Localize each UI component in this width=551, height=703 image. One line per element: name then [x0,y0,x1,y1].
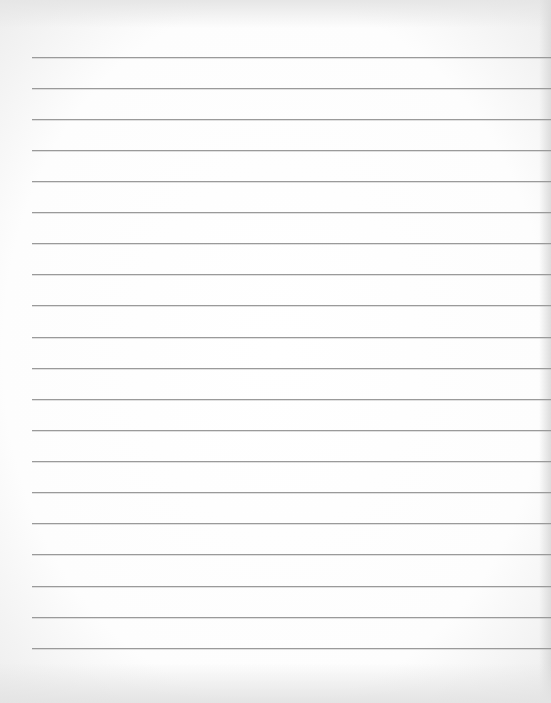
ruled-line [32,274,551,275]
ruled-line [32,648,551,649]
ruled-line [32,119,551,120]
ruled-line [32,368,551,369]
ruled-line [32,305,551,306]
ruled-line [32,492,551,493]
lined-paper-sheet [0,0,551,703]
ruled-line [32,586,551,587]
ruled-line [32,523,551,524]
ruled-line [32,399,551,400]
ruled-line [32,57,551,58]
ruled-line [32,181,551,182]
ruled-line [32,212,551,213]
ruled-line [32,88,551,89]
ruled-line [32,617,551,618]
top-shadow [0,0,551,28]
ruled-line [32,430,551,431]
bottom-shadow [0,663,551,703]
right-edge-shadow [539,0,551,703]
ruled-line [32,554,551,555]
ruled-line [32,243,551,244]
ruled-line [32,461,551,462]
ruled-line [32,150,551,151]
ruled-line [32,337,551,338]
